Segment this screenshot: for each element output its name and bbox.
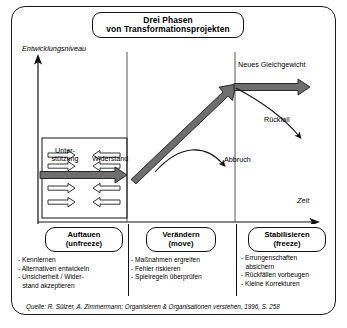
bullet-item: - Rückfällen vorbeugen [241, 271, 341, 280]
chart-plot-area [20, 52, 325, 224]
diagram-page: Drei Phasen von Transformationsprojekten… [0, 0, 347, 328]
rueckfall-arrow [236, 88, 299, 136]
x-axis [38, 218, 320, 224]
phase-english-2: (freeze) [273, 240, 300, 248]
title-line-2: von Transformationsprojekten [106, 25, 229, 34]
bullet-item: - Errungenschaften [241, 254, 341, 263]
bullet-item: - Kleine Korrekturen [241, 280, 341, 289]
diagram-title-box: Drei Phasen von Transformationsprojekten [92, 12, 244, 38]
label-unterstuetzung-line2: stützung [42, 155, 88, 163]
bullet-item: stand akzeptieren [18, 282, 130, 291]
y-axis [34, 54, 42, 224]
bullet-item: - Maßnahmen ergreifen [131, 256, 237, 265]
label-unterstuetzung: Unter- stützung [42, 147, 88, 163]
main-rising-arrow [131, 84, 236, 184]
bullet-item: - Kennlernen [18, 256, 130, 265]
bullet-item: - Spielregeln überprüfen [131, 273, 237, 282]
bullet-item: - Fehler riskieren [131, 265, 237, 274]
label-neues-gleichgewicht: Neues Gleichgewicht [238, 60, 306, 69]
source-citation: Quelle: R. Sülzer, A. Zimmermann: Organi… [26, 303, 280, 310]
phase-box-veraendern: Verändern (move) [146, 227, 216, 252]
label-widerstand: Widerstand [92, 154, 128, 163]
phase-box-stabilisieren: Stabilisieren (freeze) [248, 227, 326, 252]
bullet-item: absichern [241, 263, 341, 272]
phase-english-0: (unfreeze) [66, 240, 102, 248]
phase-box-auftauen: Auftauen (unfreeze) [45, 227, 123, 252]
main-flat-arrow [40, 167, 127, 183]
bullet-item: - Alternativen entwickeln [18, 265, 130, 274]
phase-english-1: (move) [169, 240, 194, 248]
phase-bullets-auftauen: - Kennlernen- Alternativen entwickeln- U… [18, 256, 130, 291]
phase-bullets-veraendern: - Maßnahmen ergreifen- Fehler riskieren-… [131, 256, 237, 282]
label-abbruch: Abbruch [224, 155, 251, 164]
phase-bullets-stabilisieren: - Errungenschaftenabsichern- Rückfällen … [241, 254, 341, 289]
bullet-item: - Unsicherheit / Wider- [18, 273, 130, 282]
equilibrium-arrow [234, 79, 310, 95]
label-rueckfall: Rückfall [264, 115, 290, 124]
